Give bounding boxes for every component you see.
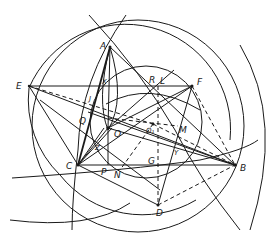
point-B <box>233 163 237 167</box>
dashed-DB <box>158 165 235 205</box>
segments <box>29 47 235 205</box>
label-Y: Y <box>174 149 179 157</box>
label-D: D <box>156 208 163 218</box>
segment-EC <box>29 86 78 165</box>
label-J: J <box>87 95 91 103</box>
label-E: E <box>16 81 22 91</box>
arc-through-D <box>10 203 130 223</box>
label-N: N <box>114 170 121 180</box>
label-F: F <box>197 77 203 87</box>
dashed-OM <box>108 118 178 126</box>
large-circle <box>28 24 230 215</box>
point-O <box>106 126 110 130</box>
point-E <box>28 85 30 87</box>
point-F <box>191 85 194 88</box>
label-Z: Z <box>94 144 100 152</box>
label-A: A <box>99 41 106 51</box>
point-C <box>77 164 80 167</box>
geometry-diagram: A B C D E F G J L M N O O₁ P Q R X Y Z <box>0 0 274 247</box>
label-G: G <box>148 156 155 166</box>
label-M: M <box>179 125 187 135</box>
segment-OF <box>108 86 192 128</box>
label-R: R <box>149 75 155 85</box>
label-O1: O₁ <box>146 127 155 135</box>
label-Q: Q <box>79 116 86 126</box>
point-O1 <box>152 123 155 126</box>
label-X: X <box>101 78 107 86</box>
label-B: B <box>240 163 246 173</box>
segment-FD <box>158 86 192 205</box>
point-D <box>157 204 160 207</box>
segment-AO <box>108 47 110 128</box>
label-O: O <box>114 129 121 139</box>
point-A <box>109 46 112 49</box>
label-C: C <box>66 161 73 171</box>
main-circle <box>32 20 244 232</box>
segment-QB <box>88 112 235 165</box>
label-L: L <box>160 76 165 86</box>
label-P: P <box>101 167 107 177</box>
